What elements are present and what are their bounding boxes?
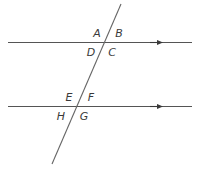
angle-label-e: E bbox=[66, 91, 73, 104]
geometry-diagram: A B D C E F H G bbox=[0, 0, 200, 169]
angle-label-f: F bbox=[88, 91, 95, 104]
transversal-line bbox=[52, 4, 121, 164]
angle-label-c: C bbox=[108, 46, 116, 59]
angle-label-d: D bbox=[87, 46, 95, 59]
angle-label-a: A bbox=[92, 27, 101, 40]
angle-label-g: G bbox=[80, 110, 89, 123]
geometry-canvas: A B D C E F H G bbox=[0, 0, 200, 169]
angle-label-b: B bbox=[115, 27, 123, 40]
angle-label-h: H bbox=[57, 110, 65, 123]
